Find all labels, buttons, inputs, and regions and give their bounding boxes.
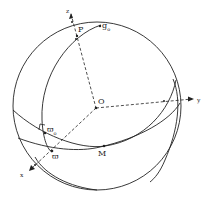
great-circle-1 <box>13 80 176 147</box>
varpi-label: ϖ <box>52 153 59 161</box>
y-arrow-icon <box>188 97 194 102</box>
x-axis-label: x <box>20 172 23 178</box>
z-circle-point <box>71 21 73 23</box>
origin-label: O <box>98 98 105 106</box>
varpi0-point <box>44 132 47 135</box>
y-axis-label: y <box>197 97 200 103</box>
pole-point <box>76 35 78 37</box>
x-axis <box>30 108 96 170</box>
x-arrow-icon <box>29 165 35 171</box>
z-axis-label: z <box>66 8 69 14</box>
g0-point <box>99 25 101 27</box>
varpi0-label: ϖo <box>47 126 57 136</box>
x-circle-point <box>34 164 36 166</box>
back-arc <box>150 79 178 182</box>
origin-point <box>95 107 98 110</box>
node-point <box>103 145 105 147</box>
meridian-p-point <box>75 38 77 40</box>
lower-arc <box>35 157 97 190</box>
y-circle-point <box>163 100 165 102</box>
sphere-outline <box>13 22 181 190</box>
z-arrow-icon <box>69 13 73 19</box>
g0-label: go <box>102 22 110 32</box>
pole-label: P <box>78 26 83 34</box>
node-label: M <box>98 150 106 158</box>
